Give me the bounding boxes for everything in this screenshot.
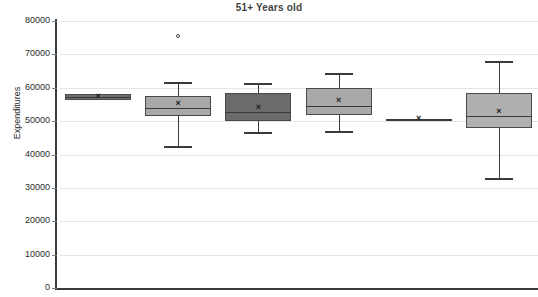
y-tick-label: 70000: [4, 48, 50, 58]
y-tick-label: 30000: [4, 182, 50, 192]
y-tick-mark: [52, 255, 57, 256]
lower-whisker-cap: [485, 178, 513, 180]
y-tick-label: 80000: [4, 15, 50, 25]
y-tick-mark: [52, 21, 57, 22]
y-tick-mark: [52, 54, 57, 55]
y-tick-mark: [52, 121, 57, 122]
y-tick-mark: [52, 155, 57, 156]
y-tick-mark: [52, 221, 57, 222]
box-plot-6[interactable]: ×: [57, 21, 538, 288]
mean-marker: ×: [494, 107, 504, 116]
y-tick-label: 0: [4, 282, 50, 292]
y-tick-mark: [52, 288, 57, 289]
y-tick-label: 20000: [4, 215, 50, 225]
y-tick-label: 50000: [4, 115, 50, 125]
upper-whisker-cap: [485, 61, 513, 63]
box-plot-chart: 51+ Years old Expenditures 8000070000600…: [0, 0, 538, 297]
upper-whisker: [499, 61, 500, 93]
x-axis-line: [55, 288, 538, 290]
y-tick-mark: [52, 188, 57, 189]
y-tick-mark: [52, 88, 57, 89]
lower-whisker: [499, 128, 500, 178]
chart-title: 51+ Years old: [0, 2, 538, 13]
y-tick-label: 10000: [4, 249, 50, 259]
y-tick-label: 60000: [4, 82, 50, 92]
y-axis-tick-labels: 8000070000600005000040000300002000010000…: [2, 0, 50, 297]
median-line: [466, 116, 532, 117]
y-tick-label: 40000: [4, 149, 50, 159]
plot-area: ××××××: [57, 21, 538, 288]
